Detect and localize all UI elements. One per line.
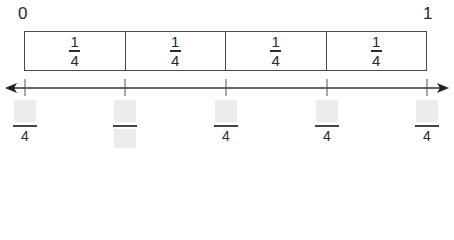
answer-fraction: [113, 100, 137, 148]
answer-fraction: 4: [214, 100, 238, 144]
fraction-bar-line: [415, 125, 439, 127]
fraction-bar-line: [113, 125, 137, 127]
answer-fraction: 4: [13, 100, 37, 144]
numerator-input-box[interactable]: [316, 100, 338, 122]
numerator-input-box[interactable]: [215, 100, 237, 122]
denominator-input-box[interactable]: [114, 129, 136, 149]
numerator-input-box[interactable]: [416, 100, 438, 122]
denominator: 4: [423, 128, 431, 144]
denominator: 4: [21, 128, 29, 144]
answer-fraction: 4: [315, 100, 339, 144]
answer-fraction: 4: [415, 100, 439, 144]
numerator-input-box[interactable]: [14, 100, 36, 122]
denominator: 4: [222, 128, 230, 144]
numerator-input-box[interactable]: [114, 100, 136, 122]
denominator: 4: [323, 128, 331, 144]
fraction-bar-line: [315, 125, 339, 127]
fraction-bar-line: [13, 125, 37, 127]
fraction-bar-line: [214, 125, 238, 127]
